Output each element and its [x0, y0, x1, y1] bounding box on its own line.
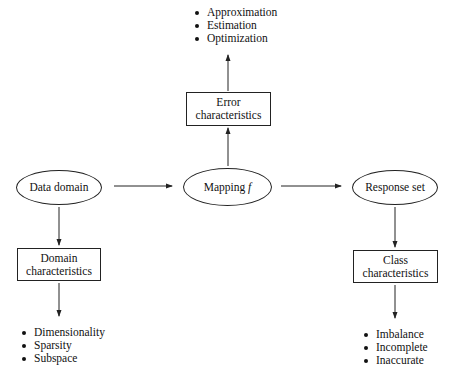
- error-list-item: Optimization: [193, 32, 277, 45]
- mapping-symbol: f: [248, 181, 251, 194]
- domain-list-item: Subspace: [20, 352, 105, 365]
- error-list-item: Estimation: [193, 19, 277, 32]
- error-characteristics-box: Error characteristics: [186, 92, 271, 126]
- class-box-line2: characteristics: [363, 267, 429, 280]
- class-list-item: Inaccurate: [362, 354, 428, 367]
- class-list: Imbalance Incomplete Inaccurate: [362, 328, 428, 367]
- mapping-label: Mapping: [204, 181, 246, 194]
- data-domain-node: Data domain: [16, 170, 102, 205]
- response-set-label: Response set: [365, 181, 425, 194]
- class-characteristics-box: Class characteristics: [353, 250, 438, 283]
- domain-box-line1: Domain: [40, 252, 77, 265]
- diagram-canvas: Approximation Estimation Optimization Er…: [0, 0, 452, 380]
- data-domain-label: Data domain: [29, 181, 88, 194]
- domain-list: Dimensionality Sparsity Subspace: [20, 326, 105, 365]
- domain-list-item: Dimensionality: [20, 326, 105, 339]
- class-list-item: Incomplete: [362, 341, 428, 354]
- class-box-line1: Class: [383, 254, 408, 267]
- error-list-item: Approximation: [193, 6, 277, 19]
- error-box-line2: characteristics: [196, 109, 262, 122]
- domain-box-line2: characteristics: [26, 265, 92, 278]
- mapping-node: Mapping f: [183, 168, 272, 206]
- response-set-node: Response set: [352, 170, 438, 205]
- domain-characteristics-box: Domain characteristics: [17, 248, 101, 281]
- error-box-line1: Error: [216, 96, 240, 109]
- class-list-item: Imbalance: [362, 328, 428, 341]
- domain-list-item: Sparsity: [20, 339, 105, 352]
- error-list: Approximation Estimation Optimization: [193, 6, 277, 45]
